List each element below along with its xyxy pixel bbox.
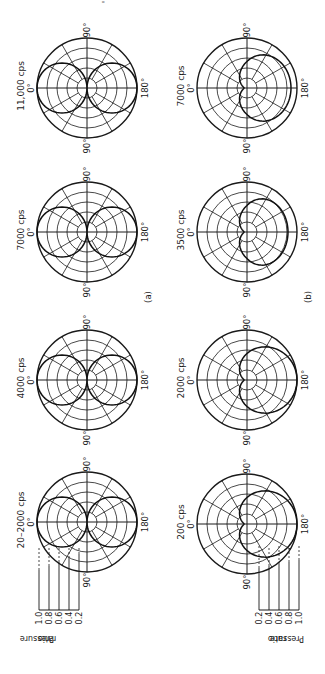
angle-label-0: 0° (186, 375, 196, 385)
grid-spoke (252, 481, 272, 516)
grid-spoke (252, 337, 272, 372)
grid-spoke (222, 45, 242, 80)
scale-tick-label: 0.2 (75, 612, 84, 625)
grid-spoke (252, 189, 272, 224)
grid-spoke (252, 45, 272, 80)
grid-spoke (92, 531, 112, 566)
polar-pattern-figure: 20–2000 cps0°180°90°90°4000 cps0°180°90°… (0, 0, 325, 674)
angle-label-90: 90° (242, 282, 252, 297)
angle-label-0: 0° (186, 83, 196, 93)
plot-frequency-title: 2000 cps (176, 357, 186, 398)
grid-spoke (256, 93, 291, 113)
angle-label-180: 180° (300, 78, 310, 98)
grid-spoke (62, 45, 82, 80)
angle-label-90: 90° (82, 314, 92, 329)
angle-label-90: 90° (82, 282, 92, 297)
angle-label-180: 180° (140, 78, 150, 98)
grid-spoke (204, 385, 239, 405)
angle-label-0: 0° (26, 83, 36, 93)
grid-spoke (252, 241, 272, 276)
grid-spoke (62, 337, 82, 372)
scale-tick-label: 0.2 (255, 612, 264, 625)
pressure-ratio-scale-a: 1.00.80.60.40.2ratioPressure (20, 548, 84, 643)
grid-spoke (92, 97, 112, 132)
plot-frequency-title: 3500 cps (176, 209, 186, 250)
scale-tick-label: 0.8 (285, 612, 294, 625)
grid-spoke (204, 529, 239, 549)
grid-spoke (222, 389, 242, 424)
polar-diagram-canvas: 20–2000 cps0°180°90°90°4000 cps0°180°90°… (0, 0, 325, 674)
polar-plot-a-3: 11,000 cps0°180°90°90° (16, 22, 150, 153)
angle-label-0: 0° (186, 227, 196, 237)
grid-spoke (62, 389, 82, 424)
group-label-b: (b) (303, 291, 313, 303)
grid-spoke (222, 189, 242, 224)
polar-plot-a-1: 4000 cps0°180°90°90° (16, 314, 150, 445)
polar-plot-a-2: 7000 cps0°180°90°90° (16, 166, 150, 297)
grid-spoke (92, 337, 112, 372)
polar-plot-b-1: 2000 cps0°180°90°90° (176, 314, 310, 445)
angle-label-90: 90° (82, 138, 92, 153)
scale-tick-label: 0.4 (265, 612, 274, 625)
scale-tick-label: 0.6 (55, 612, 64, 625)
angle-label-180: 180° (140, 222, 150, 242)
polar-plot-b-3: 7000 cps0°180°90°90° (176, 22, 310, 153)
angle-label-90: 90° (242, 458, 252, 473)
plot-frequency-title: 7000 cps (16, 209, 26, 250)
grid-spoke (252, 389, 272, 424)
grid-spoke (222, 337, 242, 372)
plot-frequency-title: 200 cps (176, 504, 186, 540)
angle-label-180: 180° (300, 222, 310, 242)
polar-plot-b-2: 3500 cps0°180°90°90° (176, 166, 310, 297)
grid-spoke (256, 529, 291, 549)
angle-label-90: 90° (82, 22, 92, 37)
grid-spoke (62, 241, 82, 276)
grid-spoke (92, 479, 112, 514)
grid-spoke (62, 189, 82, 224)
polar-plot-b-0: 200 cps0°180°90°90° (176, 458, 310, 589)
plot-frequency-title: 4000 cps (16, 357, 26, 398)
plot-frequency-title: 20–2000 cps (16, 491, 26, 548)
scale-tick-label: 1.0 (35, 612, 44, 625)
grid-spoke (256, 355, 291, 375)
angle-label-180: 180° (140, 370, 150, 390)
angle-label-180: 180° (300, 370, 310, 390)
group-label-a: (a) (143, 291, 153, 303)
angle-label-180: 180° (140, 512, 150, 532)
angle-label-90: 90° (82, 572, 92, 587)
plot-frequency-title: 11,000 cps (16, 61, 26, 111)
grid-spoke (92, 45, 112, 80)
plot-frequency-title: 7000 cps (176, 65, 186, 106)
angle-label-90: 90° (242, 22, 252, 37)
grid-spoke (252, 97, 272, 132)
grid-spoke (256, 499, 291, 519)
grid-spoke (222, 533, 242, 568)
grid-spoke (256, 385, 291, 405)
angle-label-90: 90° (242, 166, 252, 181)
page-mark: ' (101, 1, 111, 3)
grid-spoke (62, 479, 82, 514)
angle-label-180: 180° (300, 514, 310, 534)
scale-tick-label: 0.8 (45, 612, 54, 625)
angle-label-0: 0° (26, 517, 36, 527)
angle-label-90: 90° (82, 430, 92, 445)
angle-label-90: 90° (82, 456, 92, 471)
grid-spoke (204, 499, 239, 519)
scale-tick-label: 1.0 (295, 612, 304, 625)
angle-label-90: 90° (242, 574, 252, 589)
angle-label-90: 90° (242, 138, 252, 153)
scale-axis-label: Pressure (20, 634, 54, 643)
angle-label-90: 90° (242, 314, 252, 329)
grid-spoke (204, 93, 239, 113)
angle-label-0: 0° (26, 375, 36, 385)
angle-label-90: 90° (82, 166, 92, 181)
grid-spoke (92, 389, 112, 424)
grid-spoke (92, 241, 112, 276)
grid-spoke (204, 207, 239, 227)
angle-label-0: 0° (186, 519, 196, 529)
grid-spoke (256, 63, 291, 83)
grid-spoke (222, 481, 242, 516)
polar-plot-a-0: 20–2000 cps0°180°90°90° (16, 456, 150, 587)
grid-spoke (92, 189, 112, 224)
grid-spoke (222, 97, 242, 132)
